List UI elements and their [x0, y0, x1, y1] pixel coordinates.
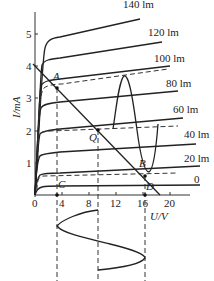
x-tick-20: 20 — [164, 197, 176, 209]
curve-label-40lm: 40 lm — [184, 128, 210, 140]
curve-label-100lm: 100 lm — [154, 52, 185, 64]
x-axis-label: U/V — [150, 210, 169, 222]
y-tick-4: 4 — [26, 60, 32, 72]
point-B — [143, 174, 147, 178]
point-D — [143, 193, 147, 197]
label-C: C — [58, 178, 66, 190]
x-tick-4: 4 — [59, 197, 65, 209]
x-tick-12: 12 — [110, 197, 121, 209]
label-A: A — [52, 70, 60, 82]
y-tick-2: 2 — [26, 125, 32, 137]
x-tick-8: 8 — [86, 197, 92, 209]
label-D: D — [145, 180, 154, 192]
y-tick-3: 3 — [26, 92, 32, 104]
point-A — [55, 86, 59, 90]
x-tick-0: 0 — [32, 197, 38, 209]
y-tick-1: 1 — [26, 157, 32, 169]
curve-label-0lm: 0 — [194, 173, 200, 185]
curve-label-140lm: 140 lm — [123, 0, 154, 10]
x-tick-16: 16 — [137, 197, 149, 209]
y-tick-5: 5 — [26, 28, 32, 40]
projection-lines — [57, 88, 145, 281]
point-C — [55, 193, 59, 197]
curve-140lm — [35, 19, 140, 195]
output-voltage-sinusoid — [57, 210, 145, 270]
curve-label-20lm: 20 lm — [184, 152, 210, 164]
label-Q: Q — [89, 131, 97, 143]
photodiode-characteristic-diagram: 1 2 3 4 5 0 4 8 12 16 20 I/mA U/V — [0, 0, 214, 281]
label-B: B — [139, 157, 146, 169]
curve-label-120lm: 120 lm — [148, 26, 179, 38]
curve-label-80lm: 80 lm — [166, 77, 192, 89]
y-axis-label: I/mA — [10, 96, 22, 119]
curve-label-60lm: 60 lm — [173, 103, 199, 115]
